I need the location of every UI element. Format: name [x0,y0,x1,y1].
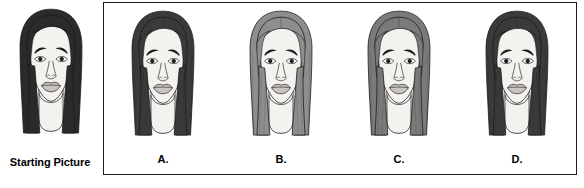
left-eye [265,58,276,63]
right-eye [286,58,297,63]
starting-picture-caption: Starting Picture [0,156,100,168]
right-eye [404,58,415,63]
face-illustration [119,6,207,154]
starting-picture-face [8,2,94,154]
face-illustration [237,6,325,154]
left-eye [35,57,46,62]
face-matching-question: Starting Picture [0,0,584,188]
option-a[interactable]: A. [104,3,222,174]
option-d-face [473,6,561,154]
right-eye [168,58,179,63]
left-eye [383,58,394,63]
answer-options-box: A. [103,2,577,175]
option-a-label: A. [104,153,222,165]
option-b-label: B. [222,153,340,165]
option-c[interactable]: C. [340,3,458,174]
left-eye [147,58,158,63]
right-eye [522,58,533,63]
option-d-label: D. [458,153,576,165]
option-b[interactable]: B. [222,3,340,174]
option-c-label: C. [340,153,458,165]
option-c-face [355,6,443,154]
face-illustration [473,6,561,154]
left-eye [501,58,512,63]
option-a-face [119,6,207,154]
face-illustration [355,6,443,154]
starting-picture-block: Starting Picture [0,0,100,188]
face-illustration [8,2,94,154]
option-d[interactable]: D. [458,3,576,174]
option-b-face [237,6,325,154]
right-eye [56,57,67,62]
